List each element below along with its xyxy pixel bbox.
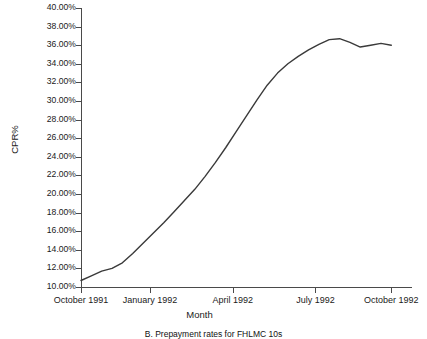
y-axis-tick-mark <box>76 64 82 65</box>
figure-caption: B. Prepayment rates for FHLMC 10s <box>0 329 427 339</box>
y-axis-tick-label: 36.00% <box>24 40 76 49</box>
y-axis-tick-label: 34.00% <box>24 59 76 68</box>
y-axis-tick-mark <box>76 27 82 28</box>
y-axis-tick-labels: 10.00%12.00%14.00%16.00%18.00%20.00%22.0… <box>18 0 76 339</box>
y-axis-tick-mark <box>76 250 82 251</box>
x-axis-tick-label: October 1991 <box>54 295 109 306</box>
chart-figure: 10.00%12.00%14.00%16.00%18.00%20.00%22.0… <box>0 0 427 339</box>
x-axis-title: Month <box>0 309 427 320</box>
y-axis-tick-label: 28.00% <box>24 115 76 124</box>
y-axis-tick-mark <box>76 120 82 121</box>
x-axis-tick-mark <box>150 287 151 293</box>
y-axis-tick-mark <box>76 8 82 9</box>
y-axis-tick-mark <box>76 268 82 269</box>
y-axis-tick-mark <box>76 175 82 176</box>
cpr-series-line <box>81 39 391 281</box>
x-axis-tick-mark <box>315 287 316 293</box>
y-axis-tick-mark <box>76 194 82 195</box>
y-axis-tick-label: 32.00% <box>24 77 76 86</box>
y-axis-tick-mark <box>76 45 82 46</box>
x-axis-line <box>81 287 412 288</box>
x-axis-tick-label: October 1992 <box>364 295 419 306</box>
y-axis-tick-mark <box>76 213 82 214</box>
y-axis-line <box>81 8 82 288</box>
y-axis-tick-label: 38.00% <box>24 22 76 31</box>
y-axis-tick-label: 16.00% <box>24 226 76 235</box>
y-axis-tick-mark <box>76 138 82 139</box>
x-axis-tick-mark <box>391 287 392 293</box>
y-axis-tick-label: 20.00% <box>24 189 76 198</box>
y-axis-tick-mark <box>76 82 82 83</box>
x-axis-tick-mark <box>233 287 234 293</box>
y-axis-tick-label: 10.00% <box>24 282 76 291</box>
y-axis-tick-label: 22.00% <box>24 170 76 179</box>
y-axis-tick-mark <box>76 231 82 232</box>
y-axis-tick-label: 40.00% <box>24 3 76 12</box>
x-axis-tick-label: July 1992 <box>296 295 335 306</box>
x-axis-tick-label: April 1992 <box>212 295 253 306</box>
x-axis-title-text: Month <box>186 309 212 320</box>
x-axis-tick-label: January 1992 <box>123 295 178 306</box>
y-axis-tick-label: 18.00% <box>24 208 76 217</box>
y-axis-tick-mark <box>76 157 82 158</box>
x-axis-tick-mark <box>81 287 82 293</box>
y-axis-tick-mark <box>76 101 82 102</box>
y-axis-tick-label: 26.00% <box>24 133 76 142</box>
y-axis-tick-label: 30.00% <box>24 96 76 105</box>
y-axis-tick-label: 14.00% <box>24 245 76 254</box>
y-axis-tick-label: 12.00% <box>24 263 76 272</box>
y-axis-title: CPR% <box>9 110 20 170</box>
y-axis-tick-label: 24.00% <box>24 152 76 161</box>
